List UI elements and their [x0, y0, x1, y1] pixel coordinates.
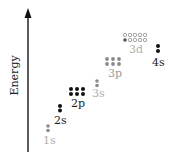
orbital-label-1s: 1s — [43, 135, 56, 146]
orbital-4s-electrons — [156, 44, 160, 53]
orbital-2p-electrons — [69, 87, 85, 96]
orbital-label-4s: 4s — [152, 57, 165, 68]
orbital-3p-electrons — [105, 57, 121, 66]
orbital-2s-electrons — [58, 104, 62, 113]
orbital-3d-electrons — [123, 33, 147, 42]
orbital-label-3p: 3p — [108, 68, 122, 79]
energy-axis-arrow — [25, 8, 32, 152]
diagram-graphics — [0, 0, 182, 156]
arrow-head-icon — [25, 8, 32, 18]
orbital-label-2s: 2s — [54, 115, 67, 126]
orbital-label-2p: 2p — [71, 98, 85, 109]
orbital-1s-electrons — [46, 124, 50, 132]
orbital-label-3s: 3s — [92, 88, 105, 99]
orbital-label-3d: 3d — [129, 44, 143, 55]
energy-axis-label: Energy — [9, 56, 20, 96]
energy-level-diagram: Energy 1s 2s 2p 3s 3p 3d 4s — [0, 0, 182, 156]
